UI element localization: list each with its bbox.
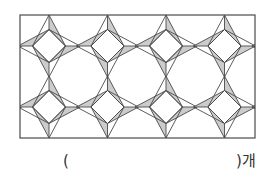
- answer-close-paren-unit: )개: [236, 151, 256, 171]
- square-tile: [150, 91, 183, 124]
- square-tile: [267, 30, 273, 63]
- square-tile: [33, 30, 66, 63]
- square-tile: [208, 91, 241, 124]
- answer-blank[interactable]: [76, 153, 232, 171]
- square-tile: [0, 91, 7, 124]
- square-tile: [91, 30, 124, 63]
- edge-line: [0, 30, 22, 47]
- tile-group: [0, 15, 272, 138]
- square-tile: [150, 30, 183, 63]
- square-tile: [267, 91, 273, 124]
- tiling-figure: [0, 0, 272, 150]
- square-tile: [0, 30, 7, 63]
- square-tile: [208, 30, 241, 63]
- shaded-triangle: [0, 46, 22, 63]
- edge-line: [0, 107, 7, 138]
- answer-open-paren: (: [63, 151, 69, 171]
- shaded-triangle: [267, 46, 273, 77]
- shaded-triangle: [0, 107, 22, 124]
- edge-line: [267, 15, 273, 46]
- square-tile: [91, 91, 124, 124]
- square-tile: [33, 91, 66, 124]
- shaded-triangle: [0, 15, 7, 46]
- shaded-triangle: [267, 107, 273, 138]
- edge-line: [267, 76, 273, 107]
- edge-line: [0, 91, 22, 108]
- shaded-triangle: [0, 76, 7, 107]
- edge-line: [0, 46, 7, 77]
